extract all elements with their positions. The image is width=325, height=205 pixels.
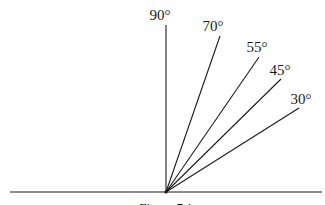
angle-labels: 90°70°55°45°30° <box>150 7 312 107</box>
angle-rays <box>166 25 299 192</box>
angle-label-70: 70° <box>203 18 224 34</box>
ray-70-deg <box>166 36 220 192</box>
angle-label-30: 30° <box>291 91 312 107</box>
origin-point <box>164 190 167 193</box>
ray-55-deg <box>166 57 259 192</box>
figure-caption: Figure 7.1 <box>139 200 192 205</box>
ray-45-deg <box>166 79 281 192</box>
ray-30-deg <box>166 108 299 192</box>
angle-label-55: 55° <box>247 39 268 55</box>
angle-label-90: 90° <box>150 7 171 23</box>
angle-label-45: 45° <box>270 62 291 78</box>
angle-diagram: 90°70°55°45°30° Figure 7.1 <box>0 0 325 205</box>
